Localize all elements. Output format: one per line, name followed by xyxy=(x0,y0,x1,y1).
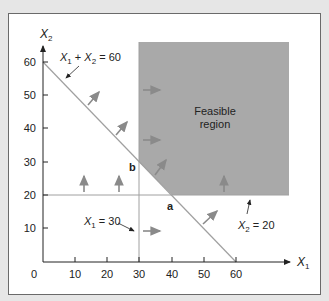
label-x2-20: X2 = 20 xyxy=(237,219,275,234)
y-tick-10: 10 xyxy=(24,222,36,234)
feasible-region-diagram: 10 20 30 40 50 60 0 10 20 30 40 50 60 X2… xyxy=(0,0,329,301)
pointer-arrow-c2 xyxy=(118,223,134,231)
region-label-line1: Feasible xyxy=(194,105,236,117)
corner-point-a: a xyxy=(167,200,174,212)
region-label-line2: region xyxy=(200,118,231,130)
label-x1-plus-x2-60: X1 + X2 = 60 xyxy=(59,51,121,66)
y-axis-label: X2 xyxy=(39,27,53,43)
x-tick-60: 60 xyxy=(230,268,242,280)
x-tick-30: 30 xyxy=(133,268,145,280)
y-tick-60: 60 xyxy=(24,56,36,68)
label-x1-30: X1 = 30 xyxy=(83,215,121,230)
x-tick-40: 40 xyxy=(166,268,178,280)
y-ticks xyxy=(43,62,48,228)
x-tick-50: 50 xyxy=(198,268,210,280)
corner-point-b: b xyxy=(129,161,136,173)
y-tick-40: 40 xyxy=(24,122,36,134)
x-ticks xyxy=(75,257,236,262)
y-tick-20: 20 xyxy=(24,189,36,201)
x-tick-10: 10 xyxy=(69,268,81,280)
pointer-arrow-c1 xyxy=(66,66,79,78)
pointer-arrow-c3 xyxy=(247,200,250,214)
y-tick-50: 50 xyxy=(24,89,36,101)
x-axis-label: X1 xyxy=(296,255,310,271)
x-tick-0: 0 xyxy=(31,268,37,280)
y-tick-30: 30 xyxy=(24,156,36,168)
x-tick-20: 20 xyxy=(101,268,113,280)
